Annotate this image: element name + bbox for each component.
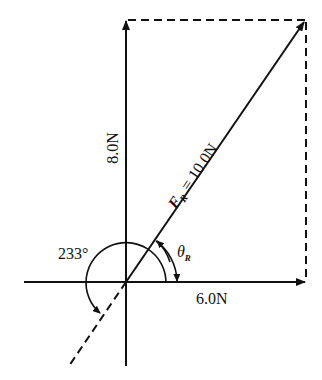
resultant-value: = 10.0N	[177, 140, 221, 193]
theta-symbol: θ	[177, 243, 185, 260]
horizontal-component-label: 6.0N	[196, 290, 228, 307]
theta-subscript: R	[184, 253, 191, 263]
resultant-reverse-dashed-line	[69, 282, 126, 366]
reverse-angle-label: 233°	[58, 245, 88, 262]
theta-r-label: θR	[177, 243, 191, 263]
vector-diagram: 8.0N 6.0N FR= 10.0N θR 233°	[0, 0, 322, 380]
svg-text:FR= 10.0N: FR= 10.0N	[164, 140, 223, 214]
vertical-component-label: 8.0N	[104, 132, 121, 164]
resultant-label: FR= 10.0N	[164, 140, 223, 214]
